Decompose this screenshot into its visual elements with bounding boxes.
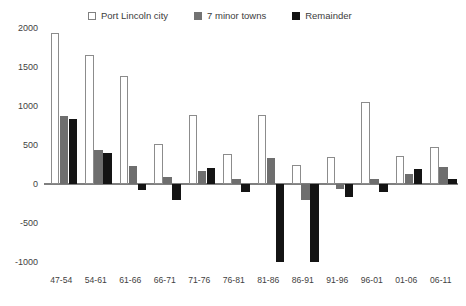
bar-76-81-gray[interactable] (232, 179, 241, 184)
bar-91-96-gray[interactable] (336, 184, 345, 189)
bar-54-61-white[interactable] (85, 55, 94, 184)
bar-86-91-black[interactable] (310, 184, 319, 262)
bar-chart: Port Lincoln city 7 minor towns Remainde… (0, 0, 466, 306)
x-axis-tick-66-71: 66-71 (154, 276, 176, 285)
bar-group-81-86: 81-86 (251, 28, 286, 262)
bar-groups: 47-5454-6161-6666-7171-7676-8181-8686-91… (44, 28, 458, 262)
x-axis-tick-47-54: 47-54 (50, 276, 72, 285)
bar-group-bars (182, 28, 217, 262)
bar-76-81-white[interactable] (223, 154, 232, 184)
y-axis-tick-4: 0 (33, 180, 38, 189)
bar-81-86-gray[interactable] (267, 158, 276, 184)
x-axis-tick-61-66: 61-66 (119, 276, 141, 285)
bar-96-01-black[interactable] (379, 184, 388, 192)
legend-item-7-minor-towns: 7 minor towns (194, 11, 266, 21)
legend-label-remainder: Remainder (305, 11, 351, 21)
bar-group-bars (44, 28, 79, 262)
bar-group-86-91: 86-91 (286, 28, 321, 262)
bar-06-11-black[interactable] (448, 179, 457, 184)
y-axis-tick-0: 2000 (18, 24, 38, 33)
legend-swatch-black-icon (292, 12, 300, 20)
bar-01-06-white[interactable] (396, 156, 405, 184)
bar-group-47-54: 47-54 (44, 28, 79, 262)
x-axis-tick-54-61: 54-61 (85, 276, 107, 285)
bar-54-61-gray[interactable] (94, 150, 103, 184)
bar-group-01-06: 01-06 (389, 28, 424, 262)
bar-86-91-white[interactable] (292, 165, 301, 185)
bar-91-96-black[interactable] (345, 184, 354, 197)
bar-group-96-01: 96-01 (355, 28, 390, 262)
bar-group-bars (424, 28, 459, 262)
bar-71-76-black[interactable] (207, 168, 216, 184)
legend-label-7-minor-towns: 7 minor towns (207, 11, 266, 21)
legend-swatch-white-icon (88, 12, 96, 20)
y-axis-tick-5: -500 (20, 219, 38, 228)
bar-71-76-gray[interactable] (198, 171, 207, 184)
plot-area: 2000150010005000-500-1000 47-5454-6161-6… (44, 28, 458, 262)
bar-91-96-white[interactable] (327, 157, 336, 184)
bar-group-bars (389, 28, 424, 262)
bar-96-01-white[interactable] (361, 102, 370, 184)
bar-61-66-white[interactable] (120, 76, 129, 184)
x-axis-tick-86-91: 86-91 (292, 276, 314, 285)
bar-61-66-black[interactable] (138, 184, 147, 190)
bar-01-06-black[interactable] (414, 169, 423, 184)
y-axis-tick-3: 500 (23, 141, 38, 150)
x-axis-tick-76-81: 76-81 (223, 276, 245, 285)
y-axis-tick-1: 1500 (18, 63, 38, 72)
x-axis-tick-06-11: 06-11 (430, 276, 451, 285)
bar-47-54-black[interactable] (69, 119, 78, 184)
bar-76-81-black[interactable] (241, 184, 250, 192)
legend-label-port-lincoln-city: Port Lincoln city (101, 11, 168, 21)
x-axis-tick-81-86: 81-86 (257, 276, 279, 285)
x-axis-tick-01-06: 01-06 (395, 276, 417, 285)
bar-47-54-white[interactable] (51, 33, 60, 184)
bar-group-bars (148, 28, 183, 262)
bar-group-bars (217, 28, 252, 262)
bar-group-bars (355, 28, 390, 262)
bar-81-86-white[interactable] (258, 115, 267, 184)
bar-group-bars (320, 28, 355, 262)
legend-item-remainder: Remainder (292, 11, 351, 21)
y-axis-tick-2: 1000 (18, 102, 38, 111)
bar-01-06-gray[interactable] (405, 174, 414, 184)
bar-group-91-96: 91-96 (320, 28, 355, 262)
bar-group-71-76: 71-76 (182, 28, 217, 262)
bar-group-bars (113, 28, 148, 262)
bar-group-bars (251, 28, 286, 262)
y-axis-tick-6: -1000 (15, 258, 38, 267)
legend-swatch-gray-icon (194, 12, 202, 20)
bar-group-61-66: 61-66 (113, 28, 148, 262)
x-axis-tick-71-76: 71-76 (188, 276, 210, 285)
bar-66-71-white[interactable] (154, 144, 163, 184)
bar-group-66-71: 66-71 (148, 28, 183, 262)
bar-06-11-gray[interactable] (439, 167, 448, 184)
bar-71-76-white[interactable] (189, 115, 198, 184)
x-axis-tick-91-96: 91-96 (326, 276, 348, 285)
chart-legend: Port Lincoln city 7 minor towns Remainde… (88, 8, 352, 24)
bar-06-11-white[interactable] (430, 147, 439, 184)
bar-group-76-81: 76-81 (217, 28, 252, 262)
bar-group-bars (286, 28, 321, 262)
bar-47-54-gray[interactable] (60, 116, 69, 184)
legend-item-port-lincoln-city: Port Lincoln city (88, 11, 168, 21)
bar-86-91-gray[interactable] (301, 184, 310, 200)
bar-group-06-11: 06-11 (424, 28, 459, 262)
bar-61-66-gray[interactable] (129, 166, 138, 184)
bar-96-01-gray[interactable] (370, 179, 379, 184)
bar-66-71-black[interactable] (172, 184, 181, 200)
bar-group-54-61: 54-61 (79, 28, 114, 262)
x-axis-tick-96-01: 96-01 (361, 276, 383, 285)
bar-54-61-black[interactable] (103, 153, 112, 184)
bar-group-bars (79, 28, 114, 262)
bar-66-71-gray[interactable] (163, 177, 172, 184)
bar-81-86-black[interactable] (276, 184, 285, 262)
